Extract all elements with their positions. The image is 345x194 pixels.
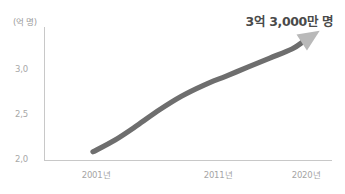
y-axis-unit-label: (억 명) bbox=[13, 15, 37, 27]
y-tick-label: 2,5 bbox=[0, 109, 28, 119]
series-line-population bbox=[93, 42, 303, 152]
x-tick-label-2011: 2011년 bbox=[204, 168, 233, 180]
x-tick-label-2001: 2001년 bbox=[82, 168, 111, 180]
series-line-group bbox=[93, 31, 320, 152]
chart-annotation-value: 3억 3,000만 명 bbox=[245, 11, 334, 30]
y-tick-label: 2,0 bbox=[0, 154, 28, 164]
y-tick-label: 3,0 bbox=[0, 64, 28, 74]
chart-container: (억 명) 3억 3,000만 명 3,0 2,5 2,0 2001년 2011… bbox=[0, 0, 345, 194]
x-tick-label-2020: 2020년 bbox=[292, 168, 321, 180]
x-axis-line bbox=[44, 160, 332, 161]
series-arrowhead-icon bbox=[297, 31, 320, 51]
y-axis-line bbox=[44, 27, 45, 161]
